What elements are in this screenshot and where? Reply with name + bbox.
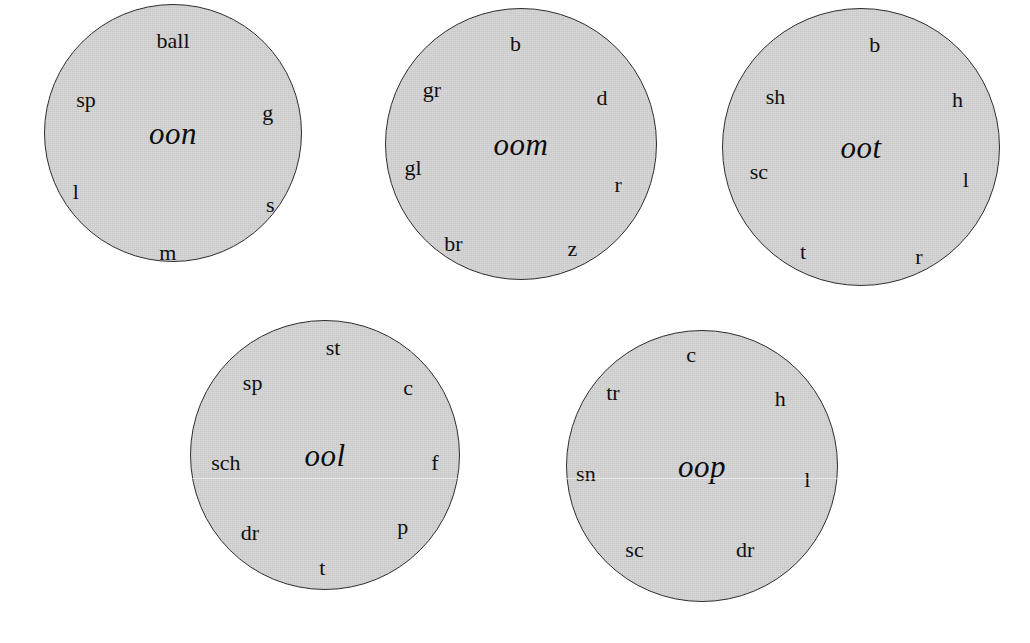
onset-label-oon-l: l (73, 181, 79, 203)
scanline-artifact (0, 478, 1030, 479)
onset-label-ool-st: st (326, 337, 341, 359)
rime-circle-oom: oombgrdglrbrz (385, 8, 657, 280)
onset-label-oom-d: d (597, 87, 608, 109)
onset-label-ool-c: c (403, 377, 413, 399)
rime-circle-oop: oopctrhsnlscdr (566, 330, 838, 602)
rime-label-ool: ool (304, 440, 345, 471)
rime-circle-oon: oonballspglsm (44, 4, 302, 262)
onset-label-oom-gr: gr (423, 79, 441, 101)
onset-label-oom-gl: gl (404, 157, 421, 179)
onset-label-oom-b: b (510, 33, 521, 55)
onset-label-oop-h: h (775, 388, 786, 410)
onset-label-ool-p: p (397, 516, 408, 538)
onset-label-oom-br: br (444, 233, 462, 255)
onset-label-oot-t: t (800, 241, 806, 263)
onset-label-ool-sch: sch (211, 452, 240, 474)
onset-label-oon-sp: sp (76, 89, 96, 111)
onset-label-ool-sp: sp (243, 372, 263, 394)
onset-label-oot-sc: sc (750, 161, 768, 183)
onset-label-oon-s: s (266, 194, 275, 216)
figure-canvas: oonballspglsmoombgrdglrbrzootbshhscltroo… (0, 0, 1030, 643)
onset-label-ool-t: t (319, 557, 325, 579)
onset-label-oop-sc: sc (625, 539, 643, 561)
onset-label-oop-l: l (804, 469, 810, 491)
onset-label-oot-sh: sh (766, 86, 786, 108)
onset-label-oot-r: r (915, 246, 922, 268)
onset-label-oon-m: m (159, 242, 176, 264)
rime-label-oon: oon (149, 118, 197, 149)
onset-label-oon-ball: ball (157, 30, 190, 52)
onset-label-oom-r: r (615, 174, 622, 196)
onset-label-ool-f: f (431, 452, 438, 474)
rime-label-oop: oop (678, 451, 726, 482)
onset-label-oop-sn: sn (576, 463, 596, 485)
rime-label-oot: oot (840, 132, 881, 163)
rime-circle-oot: ootbshhscltr (722, 8, 1000, 286)
onset-label-oop-c: c (686, 344, 696, 366)
onset-label-ool-dr: dr (241, 522, 259, 544)
onset-label-oop-tr: tr (606, 382, 619, 404)
rime-label-oom: oom (494, 129, 549, 160)
onset-label-oon-g: g (262, 102, 273, 124)
onset-label-oot-b: b (869, 34, 880, 56)
onset-label-oot-l: l (963, 169, 969, 191)
onset-label-oop-dr: dr (736, 539, 754, 561)
rime-circle-ool: oolstspcschfdrpt (190, 320, 460, 590)
onset-label-oom-z: z (567, 238, 577, 260)
onset-label-oot-h: h (952, 89, 963, 111)
